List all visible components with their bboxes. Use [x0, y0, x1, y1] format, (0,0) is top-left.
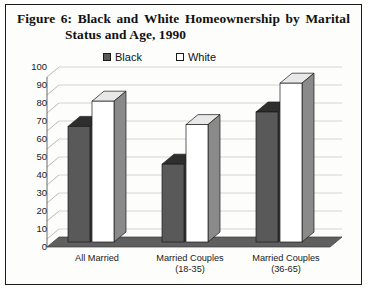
y-tick-10: 10 [21, 224, 47, 234]
x-axis-labels: All Married Married Couples (18-35) Marr… [17, 253, 352, 283]
legend-entry-black: Black [103, 51, 142, 63]
caption-word: and [117, 11, 139, 27]
figure-frame: Figure6:BlackandWhiteHomeownershipbyMari… [5, 4, 362, 285]
bar-white-all-married [92, 91, 126, 242]
caption-word: 6: [61, 11, 72, 27]
caption-word: Homeownership [185, 11, 280, 27]
x-tick-all-married: All Married [51, 253, 143, 264]
x-tick-married-couples-18-35: Married Couples (18-35) [141, 253, 239, 274]
x-tick-married-couples-18-35-line1: Married Couples [156, 253, 223, 263]
bar-white-married-couples-18-35 [186, 115, 220, 242]
y-tick-40: 40 [21, 170, 47, 180]
legend-swatch-white-icon [176, 53, 184, 61]
x-tick-married-couples-36-65: Married Couples (36-65) [237, 253, 335, 274]
x-tick-married-couples-36-65-line2: (36-65) [237, 264, 335, 275]
caption-word: Marital [305, 11, 350, 27]
figure-caption: Figure6:BlackandWhiteHomeownershipbyMari… [17, 11, 350, 42]
caption-word: Black [78, 11, 111, 27]
y-tick-20: 20 [21, 206, 47, 216]
caption-word: White [144, 11, 179, 27]
chart-bars [17, 47, 352, 279]
y-tick-0: 0 [21, 242, 47, 252]
legend-swatch-black-icon [103, 53, 111, 61]
y-axis-labels: 100 90 80 70 60 50 40 30 20 10 0 [17, 47, 47, 279]
legend-label-white: White [188, 51, 216, 63]
y-tick-50: 50 [21, 152, 47, 162]
figure-caption-line-1: Figure6:BlackandWhiteHomeownershipbyMari… [17, 11, 350, 27]
caption-word: Figure [17, 11, 55, 27]
y-tick-70: 70 [21, 116, 47, 126]
figure-caption-line-2: Status and Age, 1990 [65, 27, 350, 43]
legend-entry-white: White [176, 51, 216, 63]
bar-white-married-couples-36-65 [280, 73, 314, 242]
y-tick-80: 80 [21, 98, 47, 108]
caption-word: by [286, 11, 300, 27]
x-tick-married-couples-18-35-line2: (18-35) [141, 264, 239, 275]
y-tick-30: 30 [21, 188, 47, 198]
y-tick-90: 90 [21, 80, 47, 90]
x-tick-all-married-line1: All Married [75, 253, 119, 263]
legend-label-black: Black [115, 51, 142, 63]
x-tick-married-couples-36-65-line1: Married Couples [252, 253, 319, 263]
y-tick-60: 60 [21, 134, 47, 144]
y-tick-100: 100 [21, 62, 47, 72]
chart-plot-area: 100 90 80 70 60 50 40 30 20 10 0 Black W… [17, 47, 352, 279]
chart-legend: Black White [103, 51, 216, 63]
